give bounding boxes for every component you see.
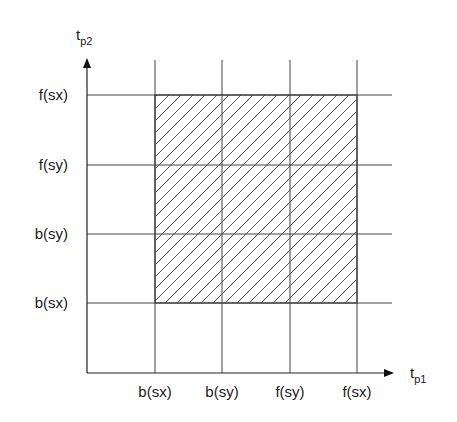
y-tick-label: f(sy) [39, 156, 68, 173]
y-axis-title: tp2 [76, 26, 92, 47]
y-tick-label: b(sy) [35, 225, 68, 242]
x-tick-label: f(sy) [275, 383, 304, 400]
hatched-region [155, 95, 357, 303]
y-tick-label: f(sx) [39, 86, 68, 103]
x-axis-title: tp1 [410, 364, 426, 385]
diagram: tp2 tp1 b(sx) b(sy) f(sy) f(sx) b(sx) b(… [0, 0, 457, 422]
x-tick-label: f(sx) [342, 383, 371, 400]
x-tick-label: b(sy) [205, 383, 238, 400]
x-tick-label: b(sx) [138, 383, 171, 400]
y-tick-label: b(sx) [35, 294, 68, 311]
